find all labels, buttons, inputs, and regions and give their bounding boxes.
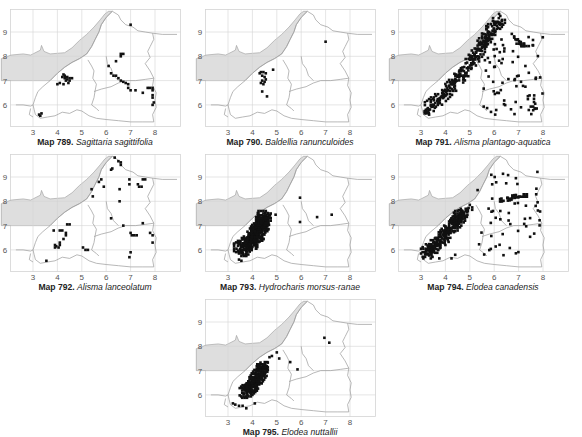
record-dot xyxy=(87,249,90,252)
record-dot xyxy=(525,195,528,198)
record-dot xyxy=(128,183,131,186)
x-tick-label: 6 xyxy=(299,128,304,137)
record-dot xyxy=(450,257,453,260)
record-dot xyxy=(428,113,431,116)
record-dot xyxy=(118,200,121,203)
record-dot xyxy=(491,34,494,37)
map-panel-793: 3456789876Map 793. Hydrocharis morsus-ra… xyxy=(195,145,385,290)
record-dot xyxy=(482,43,485,46)
record-dot xyxy=(268,356,271,359)
record-dot xyxy=(246,230,249,233)
record-dot xyxy=(429,108,432,111)
distribution-map: 3456789876 xyxy=(0,145,190,285)
species-name: Elodea nuttallii xyxy=(281,427,337,437)
record-dot xyxy=(439,247,442,250)
record-dot xyxy=(475,56,478,59)
record-dot xyxy=(493,55,496,58)
record-dot xyxy=(258,373,261,376)
record-dot xyxy=(424,256,427,259)
record-dot xyxy=(39,115,42,118)
record-dot xyxy=(245,407,248,410)
record-dot xyxy=(238,405,241,408)
x-tick-label: 4 xyxy=(250,418,255,427)
record-dot xyxy=(59,244,62,247)
record-dot xyxy=(128,256,131,259)
record-dot xyxy=(254,402,257,405)
map-number: Map 795. xyxy=(243,427,279,437)
record-dot xyxy=(464,75,467,78)
record-dot xyxy=(482,53,485,56)
record-dot xyxy=(421,251,424,254)
record-dot xyxy=(528,72,531,75)
record-dot xyxy=(491,38,494,41)
record-dot xyxy=(153,101,156,104)
species-name: Elodea canadensis xyxy=(466,282,539,292)
record-dot xyxy=(432,110,435,113)
record-dot xyxy=(498,244,501,247)
record-dot xyxy=(151,234,154,237)
record-dot xyxy=(463,66,466,69)
record-dot xyxy=(476,48,479,51)
record-dot xyxy=(479,48,482,51)
record-dot xyxy=(120,55,123,58)
record-dot xyxy=(466,213,469,216)
record-dot xyxy=(142,222,145,225)
record-dot xyxy=(146,87,149,90)
record-dot xyxy=(534,78,537,81)
map-number: Map 794. xyxy=(427,282,463,292)
record-dot xyxy=(129,232,132,235)
record-dot xyxy=(247,253,250,256)
record-dot xyxy=(523,45,526,48)
record-dot xyxy=(493,176,496,179)
record-dot xyxy=(252,373,255,376)
record-dot xyxy=(267,222,270,225)
record-dot xyxy=(265,72,268,75)
record-dot xyxy=(100,178,103,181)
record-dot xyxy=(492,48,495,51)
distribution-map: 3456789876 xyxy=(388,0,578,140)
record-dot xyxy=(480,231,483,234)
record-dot xyxy=(92,195,95,198)
record-dot xyxy=(271,355,274,358)
record-dot xyxy=(458,79,461,82)
x-tick-label: 3 xyxy=(226,273,231,282)
record-dot xyxy=(454,87,457,90)
record-dot xyxy=(257,219,260,222)
y-tick-label: 7 xyxy=(198,77,203,86)
record-dot xyxy=(84,249,87,252)
record-dot xyxy=(481,35,484,38)
record-dot xyxy=(82,246,85,249)
x-tick-label: 7 xyxy=(323,418,328,427)
record-dot xyxy=(439,244,442,247)
record-dot xyxy=(120,53,123,56)
record-dot xyxy=(520,45,523,48)
record-dot xyxy=(511,197,514,200)
record-dot xyxy=(514,101,517,104)
record-dot xyxy=(485,69,488,72)
record-dot xyxy=(449,231,452,234)
record-dot xyxy=(264,366,267,369)
record-dot xyxy=(490,23,493,26)
record-dot xyxy=(464,58,467,61)
record-dot xyxy=(495,181,498,184)
map-panel-794: 3456789876Map 794. Elodea canadensis xyxy=(388,145,578,290)
record-dot xyxy=(537,209,540,212)
record-dot xyxy=(151,89,154,92)
record-dot xyxy=(496,28,499,31)
record-dot xyxy=(469,64,472,67)
record-dot xyxy=(120,79,123,82)
record-dot xyxy=(450,219,453,222)
record-dot xyxy=(478,56,481,59)
record-dot xyxy=(445,94,448,97)
record-dot xyxy=(437,93,440,96)
record-dot xyxy=(502,200,505,203)
record-dot xyxy=(538,219,541,222)
record-dot xyxy=(537,55,540,58)
record-dot xyxy=(487,207,490,210)
record-dot xyxy=(243,247,246,250)
record-dot xyxy=(324,40,327,43)
record-dot xyxy=(260,222,263,225)
record-dot xyxy=(507,219,510,222)
record-dot xyxy=(533,94,536,97)
map-panel-795: 3456789876Map 795. Elodea nuttallii xyxy=(195,290,385,435)
